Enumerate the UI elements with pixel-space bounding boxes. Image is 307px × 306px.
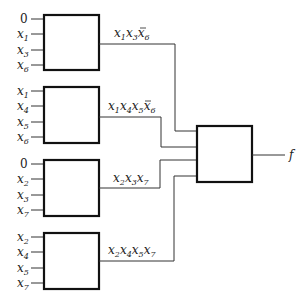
block-2-box — [44, 87, 99, 143]
block-3-input-1: x2 — [17, 172, 29, 188]
block-4-output-label: x2x4x5x7 — [108, 243, 156, 259]
block-3-input-0: 0 — [20, 157, 28, 171]
block-4-box — [44, 233, 99, 289]
block-2: x1 x4 x5 x6 x1x4x5x6 — [17, 84, 156, 146]
block-1-box — [44, 15, 99, 70]
wire-block-1-to-output — [99, 44, 197, 131]
block-4-input-2: x5 — [17, 261, 29, 277]
block-3-output-label: x2x3x7 — [113, 171, 150, 187]
logic-diagram: 0 x1 x3 x6 x1x3x6 x1 x4 x5 x6 x1x4x5x6 0… — [0, 0, 307, 306]
block-1-input-0: 0 — [20, 12, 28, 26]
block-4-input-3: x7 — [17, 276, 30, 292]
block-2-input-2: x5 — [17, 115, 29, 131]
block-2-input-3: x6 — [17, 130, 29, 146]
block-2-input-0: x1 — [17, 84, 29, 100]
block-1: 0 x1 x3 x6 x1x3x6 — [17, 12, 150, 74]
block-1-input-3: x6 — [17, 58, 29, 74]
output-block-box — [197, 126, 252, 182]
output-block: f — [197, 126, 296, 182]
block-1-input-1: x1 — [17, 27, 29, 43]
wire-block-2-to-output — [99, 117, 197, 147]
block-2-input-1: x4 — [17, 99, 29, 115]
block-3-input-3: x7 — [17, 203, 30, 219]
block-3-input-2: x3 — [17, 188, 29, 204]
output-label-f: f — [288, 148, 296, 162]
block-4-input-1: x4 — [17, 245, 29, 261]
block-1-input-2: x3 — [17, 43, 29, 59]
block-4-input-0: x2 — [17, 230, 29, 246]
block-3-box — [44, 160, 99, 216]
